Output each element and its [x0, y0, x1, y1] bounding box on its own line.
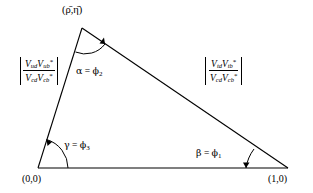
- alpha-phi-index: 2: [99, 70, 103, 78]
- right-num-v2-star: *: [233, 58, 237, 66]
- beta-phi-index: 1: [218, 152, 222, 160]
- gamma-symbol: γ: [64, 139, 70, 150]
- triangle-side-hypotenuse: [82, 28, 288, 168]
- left-numerator: VudVub*: [23, 57, 55, 71]
- alpha-symbol: α: [76, 65, 82, 76]
- alpha-angle-label: α = ϕ2: [76, 66, 103, 78]
- left-den-v2-star: *: [49, 72, 53, 80]
- beta-equals: =: [204, 148, 209, 158]
- right-denominator: VcdVcb*: [208, 71, 239, 84]
- right-numerator: VtdVtb*: [209, 57, 238, 71]
- beta-symbol: β: [196, 147, 202, 158]
- alpha-angle-arc: [76, 44, 106, 54]
- right-side-fraction: VtdVtb* VcdVcb*: [208, 57, 239, 85]
- right-den-v2-star: *: [234, 72, 238, 80]
- abs-bar-close-left: [57, 57, 58, 85]
- gamma-phi-index: 3: [86, 144, 90, 152]
- abs-bar-close-right: [241, 57, 242, 85]
- unit-vertex-label: (1,0): [268, 174, 287, 184]
- left-num-v2-star: *: [50, 58, 54, 66]
- ckm-unitarity-triangle-figure: (ρ̄,η̄) (0,0) (1,0) α = ϕ2 γ = ϕ3 β = ϕ1…: [0, 0, 313, 193]
- beta-angle-label: β = ϕ1: [196, 148, 222, 160]
- alpha-equals: =: [85, 66, 90, 76]
- right-side-magnitude-label: VtdVtb* VcdVcb*: [203, 57, 244, 85]
- left-side-magnitude-label: VudVub* VcdVcb*: [18, 57, 60, 85]
- origin-vertex-label: (0,0): [22, 174, 41, 184]
- beta-angle-arrowhead: [243, 163, 250, 169]
- gamma-equals: =: [72, 140, 77, 150]
- gamma-angle-label: γ = ϕ3: [64, 140, 90, 152]
- abs-bar-open-right: [205, 57, 206, 85]
- triangle-drawing: [0, 0, 313, 193]
- apex-vertex-label: (ρ̄,η̄): [62, 5, 82, 16]
- abs-bar-open-left: [20, 57, 21, 85]
- left-side-fraction: VudVub* VcdVcb*: [23, 57, 55, 85]
- left-denominator: VcdVcb*: [23, 71, 54, 84]
